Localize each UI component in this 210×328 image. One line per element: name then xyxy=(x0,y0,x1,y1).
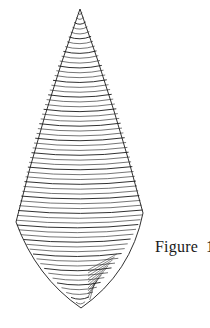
surface-outline xyxy=(16,9,143,308)
figure-caption: Figure1 xyxy=(155,238,210,256)
caption-label: Figure xyxy=(155,238,198,255)
spindle-surface-figure xyxy=(0,0,210,328)
caption-number: 1 xyxy=(206,238,210,255)
